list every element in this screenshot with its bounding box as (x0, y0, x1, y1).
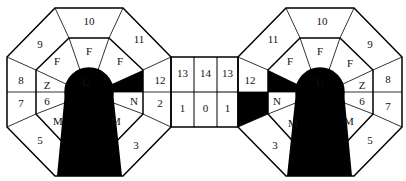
left-inner-bottom-left: M (53, 115, 63, 127)
right-outer-left-upper: 12 (245, 74, 256, 86)
left-octagon: 10 9 11 8 7 5 12 2 3 F F F Z 6 M N M U (7, 8, 171, 176)
right-outer-top-right: 9 (367, 38, 373, 50)
right-inner-top: F (317, 45, 323, 57)
bridge-bottom-3: 1 (225, 102, 231, 114)
left-inner-top-left: F (54, 55, 60, 67)
left-outer-right-upper: 12 (155, 74, 166, 86)
right-outer-bottom-right: 5 (367, 134, 373, 146)
right-inner-top-right: F (347, 57, 353, 69)
right-outer-top-left: 11 (268, 33, 279, 45)
right-center-label: U (316, 76, 324, 88)
bridge-top-2: 14 (200, 67, 212, 79)
left-outer-left-lower: 7 (18, 97, 24, 109)
right-outer-right-lower: 7 (385, 100, 391, 112)
left-outer-top-left: 9 (37, 38, 43, 50)
right-wedge-fill (268, 70, 297, 92)
dual-octagon-diagram: 10 9 11 8 7 5 12 2 3 F F F Z 6 M N M U 1… (0, 0, 406, 181)
left-outer-right-lower: 2 (157, 97, 163, 109)
bridge-grid: 13 14 13 1 0 1 (171, 57, 238, 127)
right-outer-bottom-left: 3 (272, 139, 278, 151)
left-inner-top-right: F (117, 55, 123, 67)
right-outer-top: 10 (317, 15, 329, 27)
left-inner-bottom-right: M (111, 115, 121, 127)
left-outer-bottom-right: 3 (133, 139, 139, 151)
left-outer-left-upper: 8 (18, 74, 24, 86)
right-inner-bottom-right: M (344, 115, 354, 127)
right-octagon: 10 11 9 12 8 7 3 5 F F F Z 6 N M M U (238, 8, 402, 176)
right-inner-bottom-left: M (288, 117, 298, 129)
bridge-top-3: 13 (222, 67, 234, 79)
left-inner-left-lower: 6 (44, 95, 50, 107)
right-outer-right-upper: 8 (385, 73, 391, 85)
bridge-top-1: 13 (177, 67, 189, 79)
bridge-bottom-2: 0 (203, 102, 209, 114)
right-inner-right-upper: Z (359, 79, 366, 91)
left-outer-bottom-left: 5 (37, 134, 43, 146)
right-outer-fill (238, 92, 268, 127)
left-center-label: U (82, 76, 90, 88)
left-outer-top: 10 (84, 15, 96, 27)
left-inner-right-lower: N (130, 95, 138, 107)
bridge-bottom-1: 1 (180, 102, 186, 114)
right-inner-right-lower: 6 (359, 95, 365, 107)
right-inner-top-left: F (287, 55, 293, 67)
right-inner-left-lower: N (273, 95, 281, 107)
left-inner-top: F (86, 45, 92, 57)
left-outer-top-right: 11 (134, 33, 145, 45)
left-inner-left-upper: Z (44, 79, 51, 91)
left-wedge-fill (112, 70, 143, 92)
